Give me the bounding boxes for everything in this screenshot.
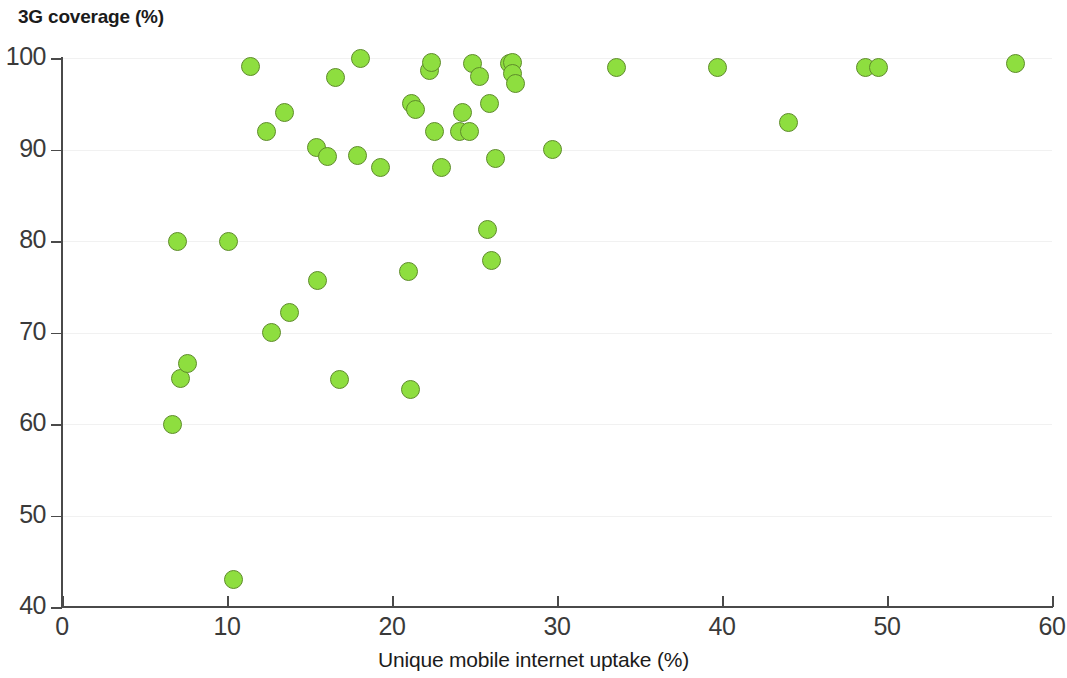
x-tick-label: 10 (214, 612, 241, 641)
data-point (257, 122, 276, 141)
data-point (280, 303, 299, 322)
x-tick-label: 0 (55, 612, 68, 641)
y-tick-label: 50 (19, 500, 46, 529)
data-point (480, 94, 499, 113)
y-tick-mark (51, 424, 62, 426)
data-point (371, 158, 390, 177)
data-point (432, 158, 451, 177)
x-tick-mark (887, 596, 889, 607)
data-point (168, 232, 187, 251)
gridline (62, 58, 1052, 59)
chart-title: 3G coverage (%) (18, 6, 164, 28)
y-tick-mark (51, 58, 62, 60)
gridline (62, 516, 1052, 517)
data-point (543, 140, 562, 159)
data-point (178, 354, 197, 373)
data-point (779, 113, 798, 132)
data-point (262, 323, 281, 342)
y-tick-label: 60 (19, 408, 46, 437)
y-tick-mark (51, 516, 62, 518)
data-point (351, 49, 370, 68)
y-tick-label: 70 (19, 317, 46, 346)
plot-area (62, 58, 1052, 607)
data-point (470, 67, 489, 86)
gridline (62, 333, 1052, 334)
y-tick-mark (51, 150, 62, 152)
y-tick-mark (51, 607, 62, 609)
data-point (486, 149, 505, 168)
data-point (224, 570, 243, 589)
y-tick-label: 100 (6, 42, 46, 71)
data-point (460, 122, 479, 141)
x-tick-mark (62, 596, 64, 607)
data-point (399, 262, 418, 281)
x-tick-mark (1052, 596, 1054, 607)
data-point (326, 68, 345, 87)
x-tick-label: 50 (874, 612, 901, 641)
gridline (62, 241, 1052, 242)
x-tick-label: 20 (379, 612, 406, 641)
x-tick-mark (392, 596, 394, 607)
data-point (453, 103, 472, 122)
y-tick-label: 80 (19, 225, 46, 254)
x-tick-mark (227, 596, 229, 607)
data-point (275, 103, 294, 122)
data-point (506, 74, 525, 93)
data-point (308, 271, 327, 290)
x-tick-mark (722, 596, 724, 607)
x-tick-mark (557, 596, 559, 607)
x-tick-label: 40 (709, 612, 736, 641)
data-point (425, 122, 444, 141)
gridline (62, 424, 1052, 425)
x-tick-label: 60 (1039, 612, 1066, 641)
data-point (348, 146, 367, 165)
y-tick-label: 90 (19, 134, 46, 163)
y-tick-label: 40 (19, 591, 46, 620)
scatter-chart: 3G coverage (%) 405060708090100 01020304… (0, 0, 1067, 678)
data-point (406, 100, 425, 119)
x-tick-label: 30 (544, 612, 571, 641)
data-point (330, 370, 349, 389)
data-point (607, 58, 626, 77)
data-point (401, 380, 420, 399)
data-point (318, 147, 337, 166)
x-axis-title: Unique mobile internet uptake (%) (0, 648, 1067, 672)
data-point (241, 57, 260, 76)
data-point (482, 251, 501, 270)
data-point (219, 232, 238, 251)
data-point (1006, 54, 1025, 73)
data-point (478, 220, 497, 239)
y-tick-mark (51, 241, 62, 243)
data-point (163, 415, 182, 434)
data-point (708, 58, 727, 77)
data-point (869, 58, 888, 77)
y-tick-mark (51, 333, 62, 335)
